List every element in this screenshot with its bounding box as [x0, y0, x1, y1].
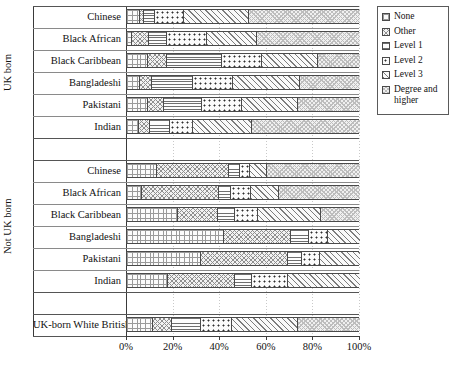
stacked-bar — [126, 317, 359, 332]
bar-segment-other — [148, 98, 165, 111]
bar-segment-l3 — [258, 208, 321, 221]
stacked-bar — [126, 185, 359, 200]
category-label: Pakistani — [33, 97, 121, 113]
stacked-bar — [126, 9, 359, 24]
legend-label: Other — [394, 26, 416, 37]
legend-swatch-l3-icon — [382, 71, 390, 79]
category-label: Indian — [33, 273, 121, 289]
row-divider — [33, 270, 359, 271]
bar-segment-l3 — [250, 164, 267, 177]
x-tick-label: 80% — [303, 341, 322, 352]
group-title: UK born — [2, 6, 13, 138]
bar-segment-other — [132, 32, 149, 45]
x-tick — [219, 336, 220, 340]
legend-item[interactable]: Level 1 — [382, 40, 445, 51]
category-label: Chinese — [33, 163, 121, 179]
bar-row: Chinese — [33, 6, 359, 28]
row-divider — [33, 204, 359, 205]
stacked-bar — [126, 229, 359, 244]
bar-segment-l2 — [222, 54, 262, 67]
bar-segment-l2 — [170, 120, 193, 133]
x-tick-label: 20% — [163, 341, 182, 352]
row-divider — [33, 226, 359, 227]
group-separator — [33, 138, 359, 139]
legend-label: Level 1 — [394, 40, 423, 51]
row-divider — [33, 72, 359, 73]
x-tick-label: 60% — [256, 341, 275, 352]
bar-segment-l2 — [302, 252, 320, 265]
stacked-bar — [126, 273, 359, 288]
bar-segment-l1 — [235, 274, 252, 287]
bar-row: Indian — [33, 116, 359, 138]
legend-item[interactable]: Degree and higher — [382, 84, 445, 106]
bar-segment-l1 — [288, 252, 302, 265]
bar-segment-none — [127, 10, 140, 23]
bar-segment-l1 — [144, 10, 155, 23]
bar-segment-l3 — [320, 252, 360, 265]
row-divider — [33, 94, 359, 95]
group-separator — [33, 314, 359, 315]
category-label: Black Caribbean — [33, 207, 121, 223]
stacked-bar — [126, 53, 359, 68]
bar-segment-deg — [300, 76, 360, 89]
stacked-bar — [126, 31, 359, 46]
category-label: Chinese — [33, 9, 121, 25]
bar-segment-deg — [267, 164, 360, 177]
bar-segment-l3 — [328, 230, 360, 243]
bar-row: Black African — [33, 28, 359, 50]
bar-segment-l1 — [219, 186, 231, 199]
bar-segment-l1 — [229, 164, 240, 177]
bar-segment-l3 — [262, 54, 318, 67]
bar-segment-deg — [321, 208, 360, 221]
row-divider — [33, 182, 359, 183]
legend-item[interactable]: Level 2 — [382, 55, 445, 66]
bar-segment-l3 — [251, 186, 279, 199]
bar-segment-l3 — [288, 274, 360, 287]
x-tick-label: 100% — [347, 341, 372, 352]
legend-label: Level 3 — [394, 69, 423, 80]
row-divider — [33, 50, 359, 51]
group-separator — [33, 292, 359, 293]
bar-segment-deg — [298, 318, 360, 331]
x-tick — [266, 336, 267, 340]
bar-row: Chinese — [33, 160, 359, 182]
group-separator — [33, 6, 359, 7]
bar-segment-other — [139, 120, 150, 133]
bar-segment-l2 — [240, 164, 250, 177]
legend-item[interactable]: Level 3 — [382, 69, 445, 80]
category-label: Bangladeshi — [33, 75, 121, 91]
bar-segment-none — [127, 208, 178, 221]
x-tick-label: 0% — [119, 341, 133, 352]
bar-segment-l2 — [193, 76, 233, 89]
bar-segment-l2 — [231, 186, 251, 199]
row-divider — [33, 116, 359, 117]
row-divider — [33, 28, 359, 29]
bar-segment-deg — [252, 120, 360, 133]
bar-segment-l3 — [232, 318, 298, 331]
bar-segment-l1 — [150, 120, 170, 133]
bar-segment-none — [127, 274, 168, 287]
bar-row: Pakistani — [33, 248, 359, 270]
bar-segment-l2 — [202, 98, 242, 111]
bar-segment-deg — [318, 54, 360, 67]
bar-segment-l1 — [152, 76, 193, 89]
x-tick — [126, 336, 127, 340]
bar-segment-l1 — [149, 32, 167, 45]
bar-segment-deg — [298, 98, 360, 111]
bar-row: Bangladeshi — [33, 226, 359, 248]
bar-segment-l3 — [233, 76, 300, 89]
bar-segment-other — [140, 76, 152, 89]
bar-segment-l3 — [242, 98, 298, 111]
bar-segment-l2 — [309, 230, 328, 243]
legend-swatch-none-icon — [382, 13, 390, 21]
legend-item[interactable]: None — [382, 11, 445, 22]
legend-item[interactable]: Other — [382, 26, 445, 37]
bar-row: Black Caribbean — [33, 50, 359, 72]
bar-segment-other — [153, 318, 171, 331]
stacked-bar — [126, 163, 359, 178]
legend[interactable]: NoneOtherLevel 1Level 2Level 3Degree and… — [377, 6, 449, 115]
x-tick — [312, 336, 313, 340]
bar-segment-none — [127, 252, 201, 265]
bar-segment-none — [127, 54, 148, 67]
x-axis-line — [126, 336, 359, 337]
